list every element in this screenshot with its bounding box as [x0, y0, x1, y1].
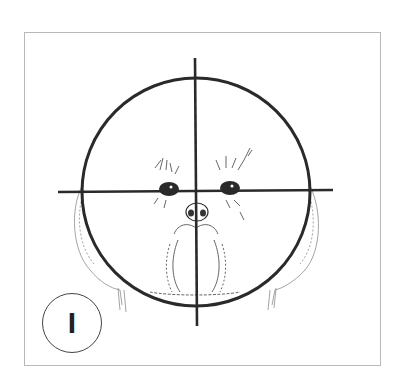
left-eye — [159, 182, 179, 196]
figure-label-badge: I — [42, 293, 102, 353]
right-eye — [220, 181, 240, 195]
face-sketch — [150, 148, 252, 295]
horizontal-guide-line — [58, 190, 333, 192]
figure-label: I — [68, 308, 76, 338]
